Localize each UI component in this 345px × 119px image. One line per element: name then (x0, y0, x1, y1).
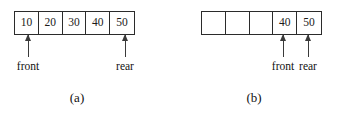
arrowhead-icon (122, 34, 128, 41)
array-cell: 40 (86, 12, 110, 34)
array-a: 10 20 30 40 50 (14, 11, 135, 35)
pointer-rear-a: rear (95, 35, 155, 73)
array-cell: 50 (110, 12, 134, 34)
pointer-rear-b: rear (278, 35, 338, 73)
pointer-label: rear (95, 60, 155, 73)
arrow-up-icon (125, 35, 126, 57)
array-cell (226, 12, 250, 34)
arrowhead-icon (25, 34, 31, 41)
queue-array-figure: 10 20 30 40 50 front rear (a) 40 50 (0, 0, 345, 119)
array-cell: 50 (297, 12, 321, 34)
array-cell: 10 (15, 12, 39, 34)
arrow-up-icon (28, 35, 29, 57)
array-b: 40 50 (201, 11, 322, 35)
panel-caption-a: (a) (0, 90, 157, 106)
array-cell: 20 (39, 12, 63, 34)
array-cell: 30 (63, 12, 87, 34)
array-cell (202, 12, 226, 34)
pointer-label: rear (278, 60, 338, 73)
array-cell: 40 (273, 12, 297, 34)
pointer-front-a: front (0, 35, 58, 73)
array-cell (250, 12, 274, 34)
arrow-up-icon (308, 35, 309, 57)
pointer-label: front (0, 60, 58, 73)
panel-caption-b: (b) (174, 90, 334, 106)
panel-b: 40 50 front rear (b) (186, 0, 345, 119)
panel-a: 10 20 30 40 50 front rear (a) (0, 0, 160, 119)
arrowhead-icon (305, 34, 311, 41)
